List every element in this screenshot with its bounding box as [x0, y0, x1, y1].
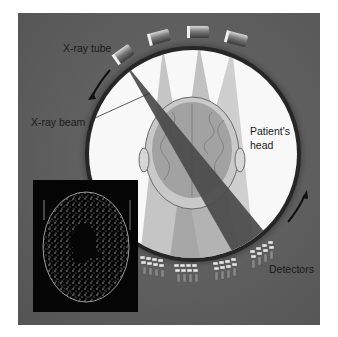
label-patient-head-line1: Patient's [250, 125, 290, 137]
diagram-canvas [0, 0, 338, 337]
xray-tube-3 [187, 26, 209, 38]
label-patient-head-line2: head [250, 139, 273, 151]
label-detectors: Detectors [269, 263, 314, 275]
ct-scan-image [33, 180, 138, 312]
label-xray-tube: X-ray tube [63, 42, 111, 54]
label-xray-beam: X-ray beam [31, 116, 85, 128]
ct-scanner-diagram: X-ray tube X-ray beam Patient's head Det… [0, 0, 338, 337]
